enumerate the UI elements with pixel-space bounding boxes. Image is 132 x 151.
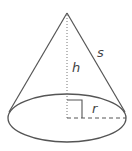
slant-label: s (97, 45, 104, 60)
cone-diagram: h s r (0, 0, 132, 151)
height-label: h (72, 60, 80, 75)
radius-label: r (92, 101, 99, 116)
right-angle-marker (67, 100, 82, 118)
